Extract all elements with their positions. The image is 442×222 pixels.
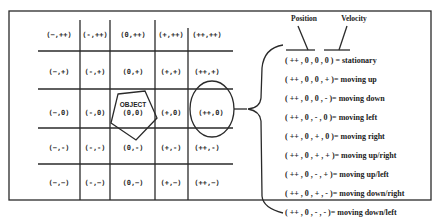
grid-cell: (-,++) xyxy=(82,31,107,39)
state-entry: ( ++ , 0 , + , 0 )= moving right xyxy=(285,132,385,141)
grid-cell: (++,++) xyxy=(192,31,222,39)
qualitative-position-velocity-diagram: (−,++) (-,++) (0,++) (+,++) (++,++) (−,+… xyxy=(0,0,442,222)
grid-cell: (0,+) xyxy=(122,68,143,76)
grid-cell: (−,0) xyxy=(48,109,69,117)
grid-cell: (0,++) xyxy=(120,31,145,39)
state-entry: ( ++ , 0 , 0 , + )= moving up xyxy=(285,75,377,84)
state-entry: ( ++ , 0 , 0 , 0 ) = stationary xyxy=(285,56,377,65)
grid-cell: (−,−) xyxy=(48,179,69,187)
grid-cell: (-,0) xyxy=(84,109,105,117)
state-entry: ( ++ , 0 , 0 , - )= moving down xyxy=(285,94,385,103)
object-label: OBJECT xyxy=(120,101,146,108)
grid-cell: (+,+) xyxy=(160,68,181,76)
state-entry: ( ++ , 0 , - , - )= moving down/left xyxy=(285,208,397,217)
state-entry: ( ++ , 0 , + , - )= moving down/right xyxy=(285,189,405,198)
grid-cell: (−,-) xyxy=(48,144,69,152)
grid-cell: (++,−) xyxy=(194,179,219,187)
grid-cell: (-,+) xyxy=(84,68,105,76)
state-entry: ( ++ , 0 , - , 0 )= moving left xyxy=(285,113,377,122)
grid-cell: (++,+) xyxy=(194,68,219,76)
state-legend-list: ( ++ , 0 , 0 , 0 ) = stationary ( ++ , 0… xyxy=(285,56,405,217)
velocity-label: Velocity xyxy=(341,14,367,23)
grid-cell: (-,-) xyxy=(84,144,105,152)
position-label: Position xyxy=(291,14,318,23)
curly-brace-icon xyxy=(248,45,283,213)
velocity-pointer xyxy=(339,26,347,50)
state-entry: ( ++ , 0 , - , + )= moving up/left xyxy=(285,170,389,179)
grid-cell: (+,−) xyxy=(160,179,181,187)
grid-cell: (-,−) xyxy=(84,179,105,187)
grid-cell-highlighted: (++,0) xyxy=(198,109,223,117)
grid-cell: (+,++) xyxy=(158,31,183,39)
position-pointer xyxy=(298,26,308,50)
grid-cell: (++,-) xyxy=(194,144,219,152)
grid-cell-object: (0,0) xyxy=(122,109,143,117)
grid-cell: (0,−) xyxy=(122,179,143,187)
grid-cell: (+,-) xyxy=(160,144,181,152)
grid-cell: (−,++) xyxy=(46,31,71,39)
state-entry: ( ++ , 0 , + , + )= moving up/right xyxy=(285,151,397,160)
grid-cell: (−,+) xyxy=(48,68,69,76)
grid-cell: (0,-) xyxy=(122,144,143,152)
grid-cell: (+,0) xyxy=(160,109,181,117)
